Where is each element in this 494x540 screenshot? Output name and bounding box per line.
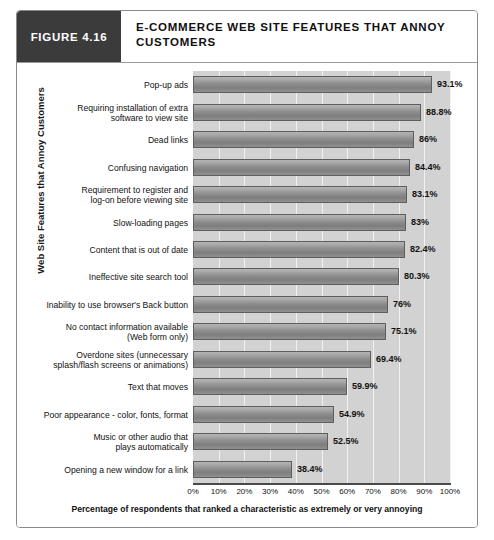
bar-row: Slow-loading pages83%	[17, 214, 450, 231]
category-label-line: Music or other audio that	[16, 432, 188, 442]
category-label-line: Content that is out of date	[16, 245, 188, 255]
bar-value-label: 69.4%	[376, 354, 402, 364]
bar	[193, 159, 410, 176]
bar-value-label: 82.4%	[410, 244, 436, 254]
bar-row: Overdone sites (unnecessarysplash/flash …	[17, 351, 450, 368]
bar-value-label: 59.9%	[352, 381, 378, 391]
chart-body: Web Site Features that Annoy Customers P…	[17, 63, 477, 528]
category-label-line: software to view site	[16, 113, 188, 123]
figure-header: FIGURE 4.16 E-COMMERCE WEB SITE FEATURES…	[17, 11, 477, 63]
category-label-line: (Web form only)	[16, 332, 188, 342]
x-tick-label: 30%	[262, 487, 278, 496]
figure-number-badge: FIGURE 4.16	[17, 11, 121, 62]
category-label: Requirement to register andlog-on before…	[16, 185, 188, 205]
bar-value-label: 52.5%	[333, 436, 359, 446]
bar	[193, 241, 405, 258]
category-label: Requiring installation of extrasoftware …	[16, 103, 188, 123]
x-tick-label: 80%	[391, 487, 407, 496]
category-label: Ineffective site search tool	[16, 272, 188, 282]
bar-value-label: 83.1%	[412, 189, 438, 199]
bar-row: Requiring installation of extrasoftware …	[17, 104, 450, 121]
bar-value-label: 75.1%	[391, 326, 417, 336]
x-tick-label: 90%	[416, 487, 432, 496]
category-label: Overdone sites (unnecessarysplash/flash …	[16, 350, 188, 370]
category-label: Content that is out of date	[16, 245, 188, 255]
category-label-line: splash/flash screens or animations)	[16, 360, 188, 370]
category-label-line: Ineffective site search tool	[16, 272, 188, 282]
bar-row: Confusing navigation84.4%	[17, 159, 450, 176]
bar-row: Ineffective site search tool80.3%	[17, 268, 450, 285]
category-label-line: Opening a new window for a link	[16, 465, 188, 475]
bar-row: Requirement to register andlog-on before…	[17, 186, 450, 203]
x-tick-label: 100%	[440, 487, 460, 496]
category-label-line: Overdone sites (unnecessary	[16, 350, 188, 360]
x-tick-label: 50%	[313, 487, 329, 496]
category-label: Text that moves	[16, 382, 188, 392]
category-label-line: log-on before viewing site	[16, 195, 188, 205]
category-label: Confusing navigation	[16, 163, 188, 173]
x-tick-label: 0%	[187, 487, 199, 496]
bar-value-label: 76%	[393, 299, 411, 309]
bar	[193, 104, 421, 121]
bar	[193, 323, 386, 340]
x-axis-line	[193, 483, 451, 485]
category-label-line: No contact information available	[16, 322, 188, 332]
category-label: Music or other audio thatplays automatic…	[16, 432, 188, 452]
figure-container: FIGURE 4.16 E-COMMERCE WEB SITE FEATURES…	[16, 10, 478, 528]
bar-value-label: 83%	[411, 217, 429, 227]
x-axis-title: Percentage of respondents that ranked a …	[17, 504, 477, 514]
x-tick-label: 20%	[236, 487, 252, 496]
category-label-line: Slow-loading pages	[16, 218, 188, 228]
category-label: Dead links	[16, 135, 188, 145]
category-label-line: Inability to use browser's Back button	[16, 300, 188, 310]
bar-row: Content that is out of date82.4%	[17, 241, 450, 258]
bar-value-label: 93.1%	[437, 79, 463, 89]
bar-value-label: 84.4%	[415, 162, 441, 172]
bar-value-label: 86%	[419, 134, 437, 144]
bar	[193, 378, 347, 395]
figure-title: E-COMMERCE WEB SITE FEATURES THAT ANNOY …	[136, 20, 467, 50]
bar	[193, 461, 292, 478]
category-label-line: Dead links	[16, 135, 188, 145]
bar	[193, 406, 334, 423]
x-tick-label: 40%	[288, 487, 304, 496]
bar	[193, 186, 407, 203]
bar	[193, 214, 406, 231]
bar	[193, 268, 399, 285]
category-label-line: Requiring installation of extra	[16, 103, 188, 113]
x-tick-label: 60%	[339, 487, 355, 496]
bar-row: Text that moves59.9%	[17, 378, 450, 395]
x-tick-label: 70%	[365, 487, 381, 496]
x-axis-ticks: 0%10%20%30%40%50%60%70%80%90%100%	[193, 487, 451, 501]
bar-row: Poor appearance - color, fonts, format54…	[17, 406, 450, 423]
figure-title-wrap: E-COMMERCE WEB SITE FEATURES THAT ANNOY …	[121, 11, 477, 62]
category-label: Inability to use browser's Back button	[16, 300, 188, 310]
bar	[193, 351, 371, 368]
category-label: Opening a new window for a link	[16, 465, 188, 475]
bar-row: Pop-up ads93.1%	[17, 76, 450, 93]
bar-value-label: 54.9%	[339, 409, 365, 419]
category-label-line: plays automatically	[16, 442, 188, 452]
bar-value-label: 88.8%	[426, 107, 452, 117]
category-label-line: Confusing navigation	[16, 163, 188, 173]
bar-value-label: 38.4%	[297, 464, 323, 474]
category-label-line: Pop-up ads	[16, 80, 188, 90]
bar	[193, 131, 414, 148]
bar-row: Music or other audio thatplays automatic…	[17, 433, 450, 450]
category-label: Slow-loading pages	[16, 218, 188, 228]
category-label-line: Poor appearance - color, fonts, format	[16, 410, 188, 420]
category-label-line: Text that moves	[16, 382, 188, 392]
x-tick-label: 10%	[211, 487, 227, 496]
gridline	[450, 71, 451, 483]
category-label: Pop-up ads	[16, 80, 188, 90]
category-label-line: Requirement to register and	[16, 185, 188, 195]
bar-value-label: 80.3%	[404, 271, 430, 281]
category-label: No contact information available(Web for…	[16, 322, 188, 342]
category-label: Poor appearance - color, fonts, format	[16, 410, 188, 420]
bar	[193, 296, 388, 313]
bar-row: Inability to use browser's Back button76…	[17, 296, 450, 313]
bar-rows: Pop-up ads93.1%Requiring installation of…	[17, 71, 450, 483]
bar-row: Opening a new window for a link38.4%	[17, 461, 450, 478]
bar-row: Dead links86%	[17, 131, 450, 148]
bar	[193, 76, 432, 93]
